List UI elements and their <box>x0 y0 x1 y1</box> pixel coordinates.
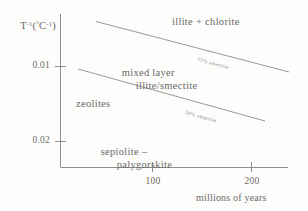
field-label-illite-smectite: illite/smectite <box>124 68 197 103</box>
field-label-illite-chlorite: illite + chlorite <box>172 16 240 28</box>
clay-mineral-stability-diagram: T-1(°C-1) 0.01 0.02 100 200 millions of … <box>0 0 308 211</box>
x-axis-title: millions of years <box>196 192 267 203</box>
y-tick-label-0.02: 0.02 <box>12 135 50 146</box>
field-label-mixed-layer-line2: illite/smectite <box>136 80 198 91</box>
field-label-sepiolite-line2: palygorskite <box>117 159 173 170</box>
x-tick-label-200: 200 <box>232 176 272 187</box>
y-axis-title-paren-close: ) <box>52 20 56 31</box>
y-axis-title: T-1(°C-1) <box>9 8 56 44</box>
field-label-palygorskite: palygorskite <box>105 147 172 182</box>
field-label-zeolites: zeolites <box>76 98 110 110</box>
y-tick-label-0.01: 0.01 <box>12 60 50 71</box>
y-axis-title-base: T <box>20 20 27 31</box>
